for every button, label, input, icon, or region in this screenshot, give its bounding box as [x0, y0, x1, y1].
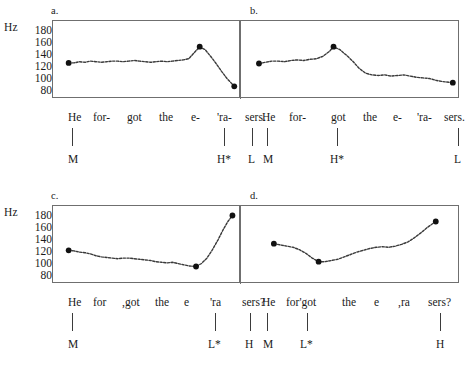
- tone-label-a-0: M: [68, 154, 78, 166]
- tone-label-b-0: M: [263, 154, 273, 166]
- y-tick-140: 140: [35, 49, 52, 61]
- word-tier-a: He for- got the e- 'ra- sers.: [60, 112, 250, 126]
- tone-tick-a-1: [224, 128, 225, 146]
- y-tick-140-b: 140: [35, 234, 52, 246]
- tone-label-d-2: H: [436, 339, 444, 351]
- y-tick-100-b: 100: [35, 258, 52, 270]
- y-tick-160-b: 160: [35, 222, 52, 234]
- anchor-point-Lstar: [316, 259, 322, 265]
- anchor-point-M: [271, 241, 277, 247]
- y-tick-180-b: 180: [35, 210, 52, 222]
- word-a-0: He: [68, 112, 81, 124]
- panel-letter-a: a.: [51, 6, 58, 17]
- anchor-point-H: [433, 219, 439, 225]
- word-d-0: He: [262, 297, 275, 309]
- tone-label-a-2: L: [248, 154, 255, 166]
- tone-label-c-0: M: [68, 339, 78, 351]
- word-d-2: the: [342, 297, 356, 309]
- word-d-3: e: [374, 297, 379, 309]
- tone-label-c-1: L*: [208, 339, 221, 351]
- word-b-2: got: [331, 112, 346, 124]
- word-c-1: for: [93, 297, 106, 309]
- tone-tick-d-2: [440, 313, 441, 331]
- panel-divider-bottom: [240, 205, 241, 284]
- tone-label-d-0: M: [263, 339, 273, 351]
- prosody-figure: Hz 180 160 140 120 100 80 a. b.: [0, 0, 465, 371]
- panel-row-top: Hz 180 160 140 120 100 80 a. b.: [0, 0, 465, 186]
- tone-label-a-1: H*: [217, 154, 231, 166]
- word-c-4: e: [184, 297, 189, 309]
- anchor-point-M: [66, 60, 72, 66]
- tone-label-d-1: L*: [300, 339, 313, 351]
- word-a-3: the: [159, 112, 173, 124]
- y-tick-80-b: 80: [41, 270, 53, 282]
- word-c-3: the: [155, 297, 169, 309]
- tone-tick-c-2: [250, 313, 251, 331]
- word-c-2: ,got: [122, 297, 140, 309]
- f0-contour-a: [53, 21, 239, 97]
- word-a-5: 'ra-: [217, 112, 232, 124]
- word-a-1: for-: [93, 112, 110, 124]
- tone-tick-d-1: [307, 313, 308, 331]
- word-tier-c: He for ,got the e 'ra sers?: [60, 297, 250, 311]
- y-tick-120-b: 120: [35, 246, 52, 258]
- f0-contour-b: [241, 21, 458, 97]
- tone-tier-a: M H* L: [60, 128, 250, 170]
- word-b-3: the: [363, 112, 377, 124]
- word-c-0: He: [68, 297, 81, 309]
- word-a-2: got: [127, 112, 142, 124]
- word-b-6: sers.: [444, 112, 465, 124]
- word-tier-b: He for- got the e- 'ra- sers.: [262, 112, 462, 126]
- y-axis-unit-label-top: Hz: [4, 22, 18, 34]
- anchor-point-H: [230, 213, 236, 219]
- panel-row-bottom: Hz 180 160 140 120 100 80 c. d.: [0, 185, 465, 371]
- word-b-5: 'ra-: [417, 112, 432, 124]
- anchor-point-Lstar: [193, 264, 199, 270]
- tone-label-c-2: H: [245, 339, 253, 351]
- tone-tick-b-2: [458, 128, 459, 146]
- plot-frame-a: [52, 20, 240, 98]
- anchor-point-L: [450, 80, 456, 86]
- word-c-5: 'ra: [210, 297, 221, 309]
- tone-tier-c: M L* H: [60, 313, 250, 355]
- plot-frame-c: [52, 205, 240, 283]
- tone-tick-c-0: [72, 313, 73, 331]
- plot-frame-d: [240, 205, 459, 283]
- word-d-4: ,ra: [398, 297, 410, 309]
- panel-divider-top: [240, 20, 241, 99]
- y-tick-180: 180: [35, 25, 52, 37]
- word-d-5: sers?: [428, 297, 451, 309]
- y-tick-120: 120: [35, 61, 52, 73]
- tone-tick-d-0: [267, 313, 268, 331]
- y-tick-100: 100: [35, 73, 52, 85]
- panel-letter-d: d.: [250, 191, 258, 202]
- tone-tick-b-1: [337, 128, 338, 146]
- word-a-4: e-: [191, 112, 200, 124]
- word-b-4: e-: [393, 112, 402, 124]
- tone-tier-d: M L* H: [262, 313, 462, 355]
- tone-tick-a-0: [72, 128, 73, 146]
- anchor-point-M: [66, 247, 72, 253]
- f0-contour-d: [241, 206, 458, 282]
- tone-label-b-2: L: [454, 154, 461, 166]
- tone-label-b-1: H*: [330, 154, 344, 166]
- y-axis-unit-label-bottom: Hz: [4, 207, 18, 219]
- panel-letter-c: c.: [51, 191, 58, 202]
- tone-tick-a-2: [252, 128, 253, 146]
- panel-letter-b: b.: [250, 6, 258, 17]
- anchor-point-Hstar: [331, 44, 337, 50]
- word-tier-d: He for'got the e ,ra sers?: [262, 297, 462, 311]
- tone-tier-b: M H* L: [262, 128, 462, 170]
- y-tick-80: 80: [41, 85, 53, 97]
- word-d-1: for'got: [286, 297, 316, 309]
- tone-tick-b-0: [267, 128, 268, 146]
- plot-frame-b: [240, 20, 459, 98]
- y-tick-160: 160: [35, 37, 52, 49]
- word-b-1: for-: [289, 112, 306, 124]
- anchor-point-M: [256, 61, 262, 67]
- tone-tick-c-1: [215, 313, 216, 331]
- anchor-point-Hstar: [197, 44, 203, 50]
- f0-contour-c: [53, 206, 239, 282]
- word-b-0: He: [262, 112, 275, 124]
- anchor-point-L: [231, 83, 237, 89]
